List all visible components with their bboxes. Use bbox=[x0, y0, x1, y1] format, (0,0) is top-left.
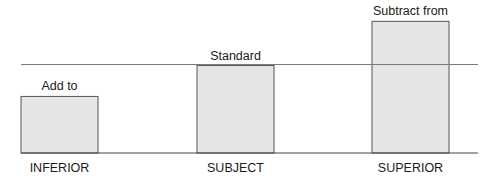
category-label-inferior: INFERIOR bbox=[30, 161, 90, 175]
comparison-diagram: Add toINFERIORStandardSUBJECTSubtract fr… bbox=[0, 0, 495, 181]
bar-inferior bbox=[21, 96, 98, 153]
bar-subject bbox=[197, 66, 274, 153]
bar-annotation-superior: Subtract from bbox=[373, 4, 448, 18]
bars-layer bbox=[21, 21, 449, 153]
bar-superior bbox=[372, 21, 449, 153]
bar-annotation-subject: Standard bbox=[210, 49, 261, 63]
category-label-superior: SUPERIOR bbox=[378, 161, 443, 175]
bar-annotation-inferior: Add to bbox=[41, 79, 77, 93]
category-label-subject: SUBJECT bbox=[207, 161, 264, 175]
